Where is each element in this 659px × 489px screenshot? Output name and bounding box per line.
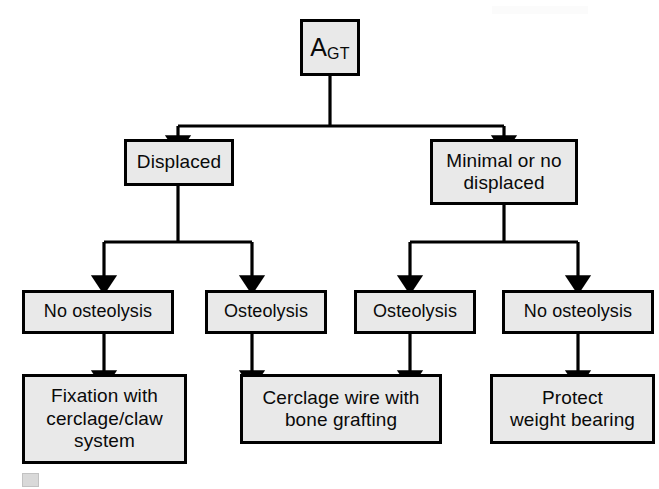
node-minimal-or-no-displaced: Minimal or no displaced: [430, 139, 578, 205]
page-scan-fragment: [22, 473, 39, 487]
node-minimal-osteolysis: Osteolysis: [354, 290, 476, 334]
node-root-agt: AGT: [300, 19, 360, 76]
node-minimal-or-no-displaced-label: Minimal or no displaced: [442, 150, 565, 195]
node-displaced-no-osteolysis: No osteolysis: [22, 290, 174, 334]
node-minimal-no-osteolysis-label: No osteolysis: [520, 301, 636, 322]
node-displaced-osteolysis-label: Osteolysis: [220, 301, 312, 322]
node-minimal-osteolysis-label: Osteolysis: [369, 301, 461, 322]
node-protect-weight-bearing: Protect weight bearing: [490, 374, 655, 444]
node-cerclage-wire-bone-grafting: Cerclage wire with bone grafting: [240, 374, 442, 444]
node-protect-weight-bearing-label: Protect weight bearing: [506, 387, 639, 432]
node-fixation-cerclage-claw-label: Fixation with cerclage/claw system: [42, 385, 166, 452]
node-root-label: AGT: [306, 33, 354, 63]
node-displaced-label: Displaced: [133, 151, 225, 173]
node-minimal-no-osteolysis: No osteolysis: [502, 290, 654, 334]
node-displaced: Displaced: [124, 139, 234, 186]
flowchart-diagram: AGT Displaced Minimal or no displaced No…: [0, 0, 659, 489]
node-fixation-cerclage-claw: Fixation with cerclage/claw system: [22, 374, 187, 464]
node-displaced-osteolysis: Osteolysis: [205, 290, 327, 334]
node-cerclage-wire-bone-grafting-label: Cerclage wire with bone grafting: [258, 387, 423, 432]
node-displaced-no-osteolysis-label: No osteolysis: [40, 301, 156, 322]
